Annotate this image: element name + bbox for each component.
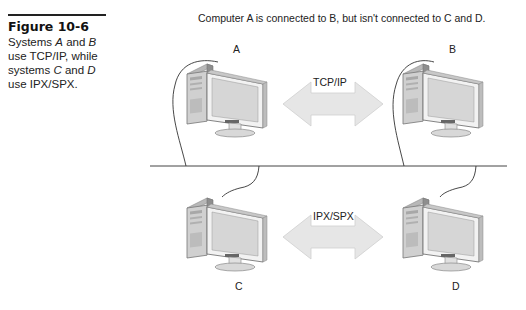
- computer-d-label: D: [452, 280, 460, 292]
- tcpip-label: TCP/IP: [313, 76, 347, 88]
- tcpip-double-arrow-icon: [283, 82, 383, 126]
- computer-b-icon: [403, 64, 483, 137]
- cable-c: [222, 166, 259, 197]
- ipxspx-label: IPX/SPX: [313, 210, 354, 222]
- computer-a-label: A: [233, 43, 240, 55]
- computer-d-icon: [403, 198, 483, 271]
- computer-c-icon: [187, 198, 267, 271]
- computer-a-icon: [187, 64, 267, 137]
- computer-c-label: C: [235, 280, 243, 292]
- cable-d: [440, 166, 476, 197]
- network-diagram: [0, 0, 526, 310]
- computer-b-label: B: [449, 43, 456, 55]
